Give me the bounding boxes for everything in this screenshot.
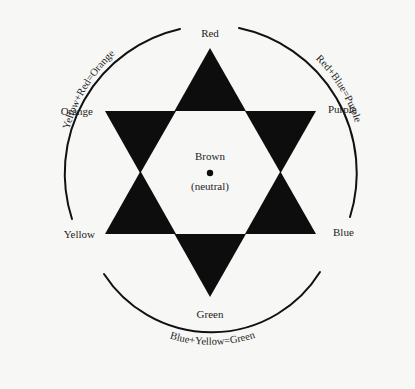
color-star-diagram: Yellow+Red=Orange Red+Blue=Purple Blue+Y… [0,0,415,389]
vertex-label-lower-left: Yellow [64,228,95,240]
vertex-label-upper-left: Orange [61,105,93,117]
center-sublabel: (neutral) [191,180,229,193]
vertex-label-bottom: Green [197,308,224,320]
center-label: Brown [195,150,225,162]
vertex-label-upper-right: Purple [328,103,357,115]
vertex-label-lower-right: Blue [333,226,354,238]
center-dot [207,170,213,176]
vertex-label-top: Red [201,27,219,39]
arc-left-label: Yellow+Red=Orange [60,47,116,130]
